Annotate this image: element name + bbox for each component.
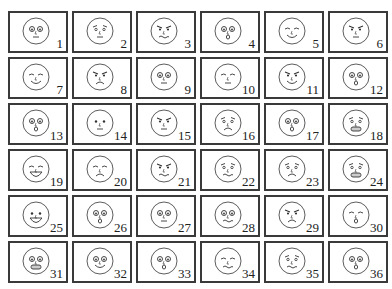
face-cell: 19 — [8, 149, 68, 191]
face-icon — [342, 201, 370, 229]
face-number: 5 — [313, 37, 320, 50]
face-icon — [278, 247, 306, 275]
face-cell: 24 — [328, 149, 388, 191]
face-number: 13 — [50, 129, 63, 142]
face-number: 29 — [306, 221, 319, 234]
face-number: 32 — [114, 267, 127, 280]
face-cell: 17 — [264, 103, 324, 145]
face-number: 18 — [370, 129, 383, 142]
face-cell: 2 — [72, 11, 132, 53]
face-icon — [22, 109, 50, 137]
face-icon — [22, 201, 50, 229]
face-number: 6 — [377, 37, 384, 50]
face-icon — [150, 201, 178, 229]
face-grid: 1 2 3 4 5 6 — [8, 11, 387, 284]
face-icon — [86, 17, 114, 45]
face-icon — [150, 155, 178, 183]
face-number: 11 — [306, 83, 319, 96]
face-cell: 8 — [72, 57, 132, 99]
face-number: 20 — [114, 175, 127, 188]
face-number: 1 — [57, 37, 64, 50]
face-number: 21 — [178, 175, 191, 188]
face-icon — [22, 247, 50, 275]
face-cell: 20 — [72, 149, 132, 191]
face-cell: 15 — [136, 103, 196, 145]
face-icon — [86, 63, 114, 91]
face-number: 31 — [50, 267, 63, 280]
face-cell: 30 — [328, 195, 388, 237]
face-cell: 3 — [136, 11, 196, 53]
face-icon — [278, 109, 306, 137]
face-icon — [86, 109, 114, 137]
face-icon — [278, 155, 306, 183]
face-number: 10 — [242, 83, 255, 96]
face-cell: 26 — [72, 195, 132, 237]
face-icon — [278, 201, 306, 229]
face-number: 4 — [249, 37, 256, 50]
face-icon — [214, 17, 242, 45]
face-cell: 36 — [328, 241, 388, 283]
face-icon — [214, 63, 242, 91]
face-number: 30 — [370, 221, 383, 234]
face-icon — [150, 109, 178, 137]
face-number: 16 — [242, 129, 255, 142]
face-number: 33 — [178, 267, 191, 280]
face-cell: 11 — [264, 57, 324, 99]
face-cell: 22 — [200, 149, 260, 191]
face-cell: 23 — [264, 149, 324, 191]
face-cell: 14 — [72, 103, 132, 145]
face-icon — [150, 63, 178, 91]
face-cell: 9 — [136, 57, 196, 99]
face-icon — [150, 17, 178, 45]
face-icon — [342, 109, 370, 137]
face-cell: 35 — [264, 241, 324, 283]
face-icon — [22, 17, 50, 45]
face-cell: 7 — [8, 57, 68, 99]
face-icon — [150, 247, 178, 275]
face-number: 17 — [306, 129, 319, 142]
face-icon — [86, 201, 114, 229]
face-cell: 16 — [200, 103, 260, 145]
face-icon — [86, 247, 114, 275]
face-cell: 18 — [328, 103, 388, 145]
face-number: 34 — [242, 267, 255, 280]
face-icon — [22, 63, 50, 91]
face-icon — [278, 63, 306, 91]
face-icon — [22, 155, 50, 183]
face-cell: 34 — [200, 241, 260, 283]
face-number: 24 — [370, 175, 383, 188]
face-number: 35 — [306, 267, 319, 280]
face-number: 23 — [306, 175, 319, 188]
face-number: 36 — [370, 267, 383, 280]
face-icon — [86, 155, 114, 183]
face-cell: 25 — [8, 195, 68, 237]
face-number: 26 — [114, 221, 127, 234]
face-number: 27 — [178, 221, 191, 234]
face-cell: 6 — [328, 11, 388, 53]
face-cell: 31 — [8, 241, 68, 283]
face-icon — [342, 17, 370, 45]
face-icon — [214, 247, 242, 275]
face-number: 9 — [185, 83, 192, 96]
face-cell: 32 — [72, 241, 132, 283]
face-number: 14 — [114, 129, 127, 142]
face-cell: 33 — [136, 241, 196, 283]
face-icon — [214, 201, 242, 229]
face-cell: 28 — [200, 195, 260, 237]
face-icon — [214, 109, 242, 137]
face-icon — [278, 17, 306, 45]
face-cell: 4 — [200, 11, 260, 53]
face-cell: 29 — [264, 195, 324, 237]
face-number: 28 — [242, 221, 255, 234]
face-cell: 13 — [8, 103, 68, 145]
face-icon — [342, 155, 370, 183]
face-number: 3 — [185, 37, 192, 50]
face-number: 25 — [50, 221, 63, 234]
face-number: 15 — [178, 129, 191, 142]
face-number: 7 — [57, 83, 64, 96]
face-icon — [342, 63, 370, 91]
face-icon — [342, 247, 370, 275]
face-number: 19 — [50, 175, 63, 188]
face-cell: 5 — [264, 11, 324, 53]
face-cell: 12 — [328, 57, 388, 99]
